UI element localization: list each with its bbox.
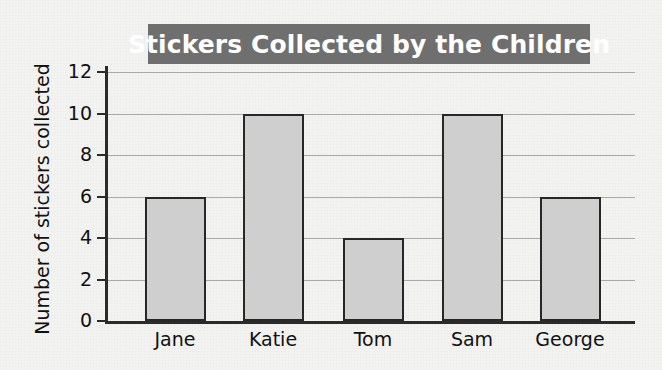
- gridline-12: [108, 72, 635, 73]
- y-tick-label-12: 12: [52, 60, 92, 82]
- y-tick-label-8: 8: [52, 143, 92, 165]
- x-tick-label-katie: Katie: [233, 328, 313, 350]
- y-tick-labels: 12 10 8 6 4 2 0: [48, 0, 92, 370]
- y-tick-label-2: 2: [52, 268, 92, 290]
- y-tick-mark-10: [97, 113, 108, 115]
- y-tick-mark-2: [97, 279, 108, 281]
- y-tick-mark-12: [97, 71, 108, 73]
- y-tick-label-6: 6: [52, 185, 92, 207]
- y-tick-label-0: 0: [52, 309, 92, 331]
- gridline-8: [108, 155, 635, 156]
- x-axis-line: [105, 321, 635, 324]
- chart-title-banner: Stickers Collected by the Children: [148, 24, 590, 64]
- bar-jane[interactable]: [145, 197, 206, 322]
- y-tick-label-10: 10: [52, 102, 92, 124]
- bar-george[interactable]: [540, 197, 601, 322]
- x-tick-label-jane: Jane: [135, 328, 215, 350]
- x-tick-label-tom: Tom: [333, 328, 413, 350]
- y-tick-mark-0: [97, 320, 108, 322]
- bar-chart-figure: Stickers Collected by the Children Numbe…: [0, 0, 662, 370]
- y-tick-mark-4: [97, 237, 108, 239]
- y-tick-label-4: 4: [52, 226, 92, 248]
- gridline-10: [108, 114, 635, 115]
- bar-katie[interactable]: [243, 114, 304, 322]
- bar-tom[interactable]: [343, 238, 404, 321]
- bar-sam[interactable]: [442, 114, 503, 322]
- x-tick-label-george: George: [528, 328, 612, 350]
- y-axis-line: [105, 66, 108, 323]
- x-tick-label-sam: Sam: [432, 328, 512, 350]
- y-tick-mark-8: [97, 154, 108, 156]
- y-tick-mark-6: [97, 196, 108, 198]
- chart-title: Stickers Collected by the Children: [128, 30, 610, 59]
